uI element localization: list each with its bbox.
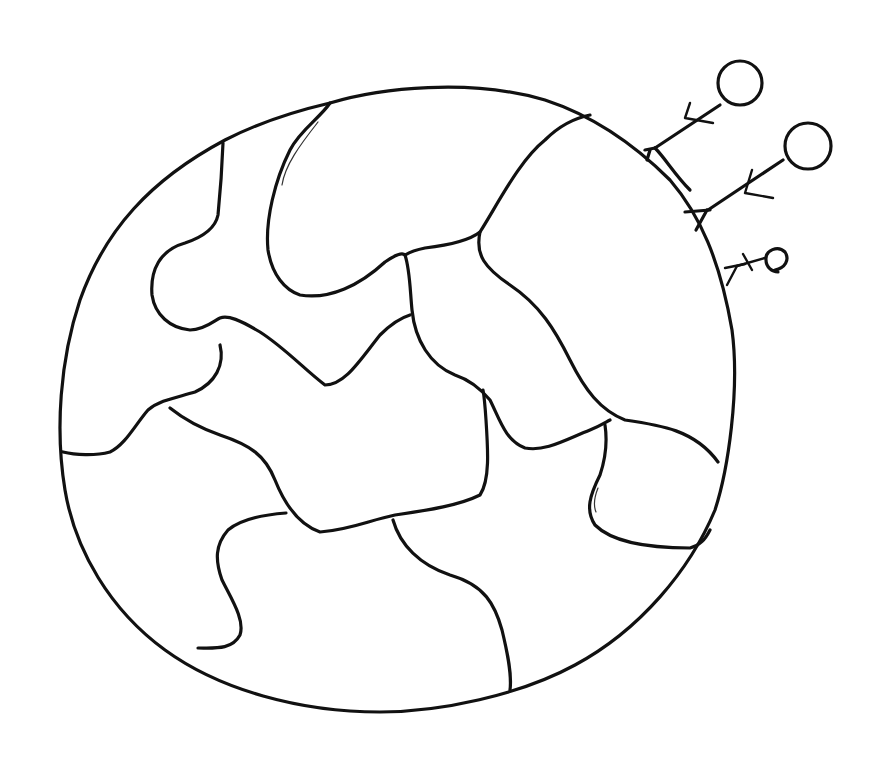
drawing-canvas xyxy=(0,0,885,758)
continent-small-right xyxy=(590,425,710,548)
continent-central xyxy=(170,390,488,532)
flower-small-bottom xyxy=(725,249,787,285)
sketch-stroke xyxy=(594,488,598,512)
continent-north xyxy=(267,103,590,296)
continent-south-right xyxy=(393,520,511,690)
continent-west xyxy=(152,143,410,385)
continent-south-left xyxy=(198,513,286,648)
globe-drawing xyxy=(0,0,885,758)
flower-large-middle xyxy=(685,123,831,230)
continent-central-left xyxy=(63,345,221,455)
globe-outline xyxy=(60,87,735,712)
